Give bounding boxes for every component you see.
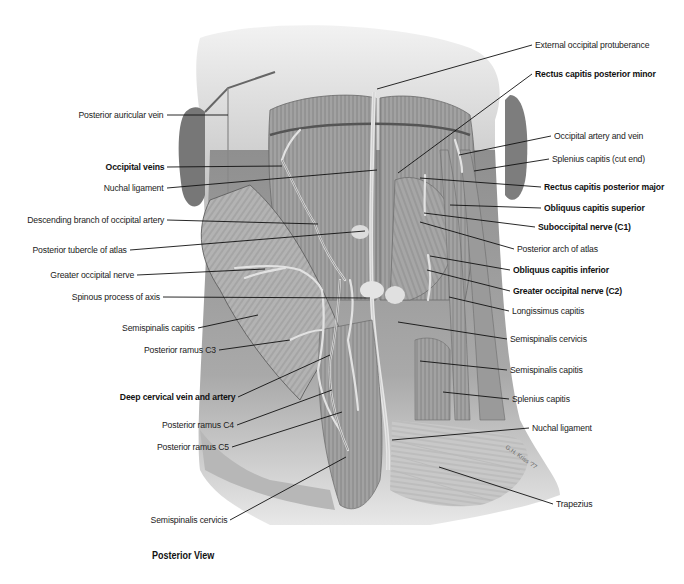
label-posterior-tubercle-atlas: Posterior tubercle of atlas [33, 244, 127, 256]
label-posterior-ramus-c4: Posterior ramus C4 [162, 419, 234, 431]
left-ear [179, 107, 205, 206]
label-splenius-capitis-cut-end: Splenius capitis (cut end) [552, 153, 645, 165]
label-suboccipital-nerve-c1: Suboccipital nerve (C1) [538, 221, 631, 233]
label-descending-branch-occipital-artery: Descending branch of occipital artery [27, 214, 164, 226]
label-posterior-ramus-c3: Posterior ramus C3 [144, 344, 216, 356]
label-rectus-capitis-posterior-minor: Rectus capitis posterior minor [535, 68, 656, 80]
label-obliquus-capitis-inferior: Obliquus capitis inferior [513, 264, 609, 276]
label-rectus-capitis-posterior-major: Rectus capitis posterior major [544, 181, 664, 193]
right-ear [505, 95, 527, 200]
label-greater-occipital-nerve-c2: Greater occipital nerve (C2) [513, 285, 622, 297]
label-external-occipital-protuberance: External occipital protuberance [535, 39, 649, 51]
label-posterior-arch-atlas: Posterior arch of atlas [517, 243, 598, 255]
label-greater-occipital-nerve: Greater occipital nerve [50, 269, 134, 281]
label-semispinalis-cervicis-left: Semispinalis cervicis [150, 514, 227, 526]
label-posterior-ramus-c5: Posterior ramus C5 [157, 441, 229, 453]
figure-caption: Posterior View [152, 550, 214, 561]
label-semispinalis-capitis-left: Semispinalis capitis [122, 322, 195, 334]
label-splenius-capitis: Splenius capitis [512, 393, 570, 405]
label-occipital-veins: Occipital veins [105, 161, 164, 173]
label-semispinalis-capitis-right: Semispinalis capitis [510, 364, 583, 376]
label-semispinalis-cervicis-right: Semispinalis cervicis [510, 333, 587, 345]
label-nuchal-ligament-upper: Nuchal ligament [104, 182, 164, 194]
label-trapezius: Trapezius [556, 498, 592, 510]
label-posterior-auricular-vein: Posterior auricular vein [79, 109, 164, 121]
label-occipital-artery-vein: Occipital artery and vein [554, 130, 643, 142]
label-deep-cervical-vein-artery: Deep cervical vein and artery [119, 391, 235, 403]
label-obliquus-capitis-superior: Obliquus capitis superior [544, 202, 645, 214]
label-longissimus-capitis: Longissimus capitis [512, 305, 584, 317]
label-nuchal-ligament-lower: Nuchal ligament [532, 422, 592, 434]
label-spinous-process-axis: Spinous process of axis [72, 291, 160, 303]
